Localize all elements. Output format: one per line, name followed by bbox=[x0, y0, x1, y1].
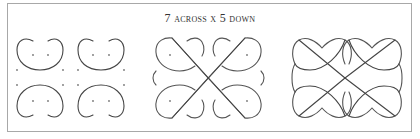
panel-3-side-left bbox=[292, 64, 295, 92]
panel-2-bracket-left bbox=[153, 71, 156, 85]
panel-2-partial-kolam bbox=[153, 38, 264, 118]
panel-1-arc-bottom-right bbox=[78, 85, 124, 117]
panel-2-curl-bottom-right bbox=[213, 100, 230, 118]
panel-1-arc-bottom-left bbox=[17, 85, 63, 117]
panel-3-side-right bbox=[399, 64, 402, 92]
panel-3-cross-lower-right-a bbox=[349, 86, 399, 116]
kolam-illustration bbox=[0, 0, 420, 139]
panel-1-dot-grid-arcs bbox=[16, 39, 125, 117]
panel-3-cross-upper-left-a bbox=[299, 40, 345, 78]
panel-2-curl-top-right bbox=[213, 38, 230, 56]
panel-2-curl-bottom-left bbox=[187, 100, 204, 118]
panel-3-cross-upper-right-a bbox=[349, 40, 399, 70]
panel-1-arc-top-left bbox=[17, 39, 63, 70]
panel-2-lobe-top-right bbox=[208, 38, 261, 78]
panel-2-lobe-bottom-right bbox=[208, 78, 261, 118]
panel-3-cross-lower-left-b bbox=[295, 86, 345, 116]
panel-2-bracket-right bbox=[261, 71, 264, 85]
panel-2-lobe-top-left bbox=[156, 38, 208, 78]
panel-1-dots bbox=[16, 54, 125, 102]
panel-3-cross-upper-left-b bbox=[295, 40, 345, 70]
panel-3-cross-lower-left-a bbox=[299, 78, 345, 116]
panel-2-curl-top-left bbox=[187, 38, 204, 56]
panel-2-lobe-bottom-left bbox=[156, 78, 208, 118]
panel-1-arc-top-right bbox=[78, 39, 124, 70]
panel-3-complete-kolam bbox=[292, 39, 402, 118]
